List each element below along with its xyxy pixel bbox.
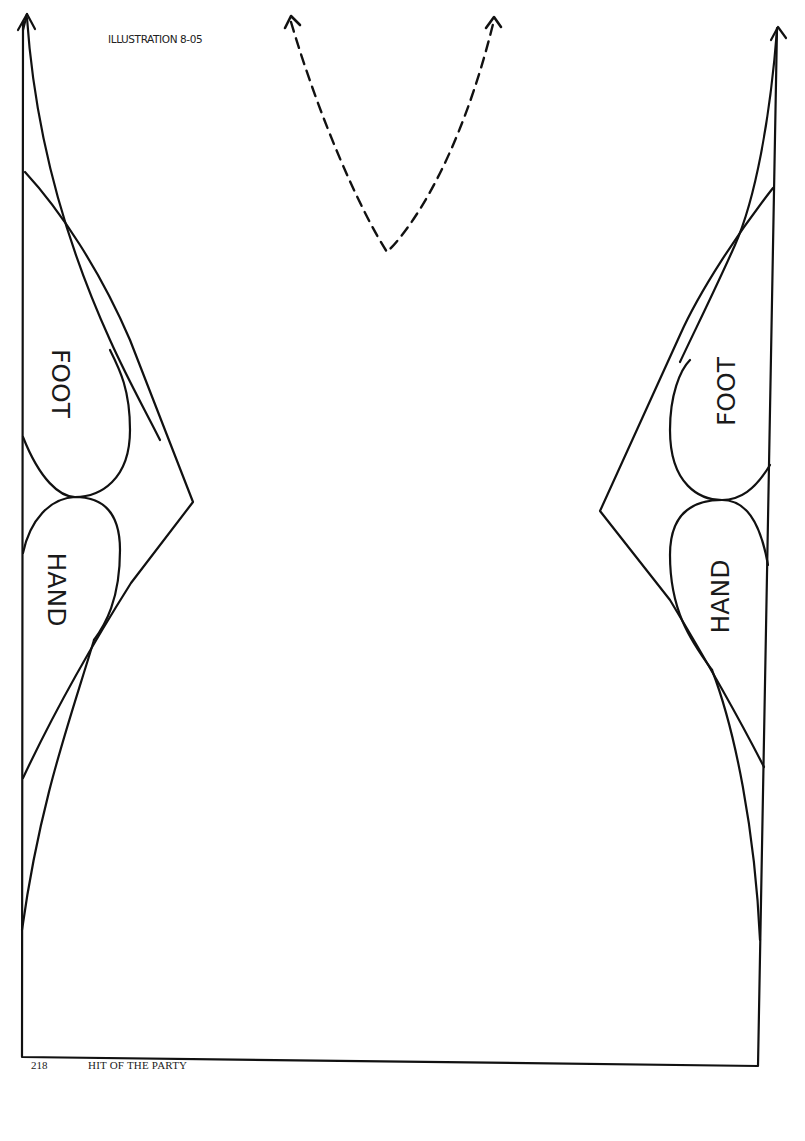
pattern-outline xyxy=(22,22,777,1066)
illustration-title: ILLUSTRATION 8-05 xyxy=(108,33,202,45)
book-title: HIT OF THE PARTY xyxy=(88,1059,187,1071)
right-arrow-icon xyxy=(771,27,786,40)
right-foot-label: FOOT xyxy=(714,357,739,426)
right-side-curve xyxy=(680,30,777,362)
left-hand-label: HAND xyxy=(44,553,69,627)
page-number: 218 xyxy=(31,1059,48,1071)
left-foot-shape xyxy=(23,350,130,497)
right-chevron xyxy=(600,188,773,767)
neckline-dashed xyxy=(291,20,494,252)
right-hand-label: HAND xyxy=(708,560,733,634)
left-hand-shape xyxy=(23,497,120,640)
pattern-diagram xyxy=(0,0,805,1141)
left-chevron xyxy=(23,172,193,778)
left-foot-label: FOOT xyxy=(48,349,73,418)
